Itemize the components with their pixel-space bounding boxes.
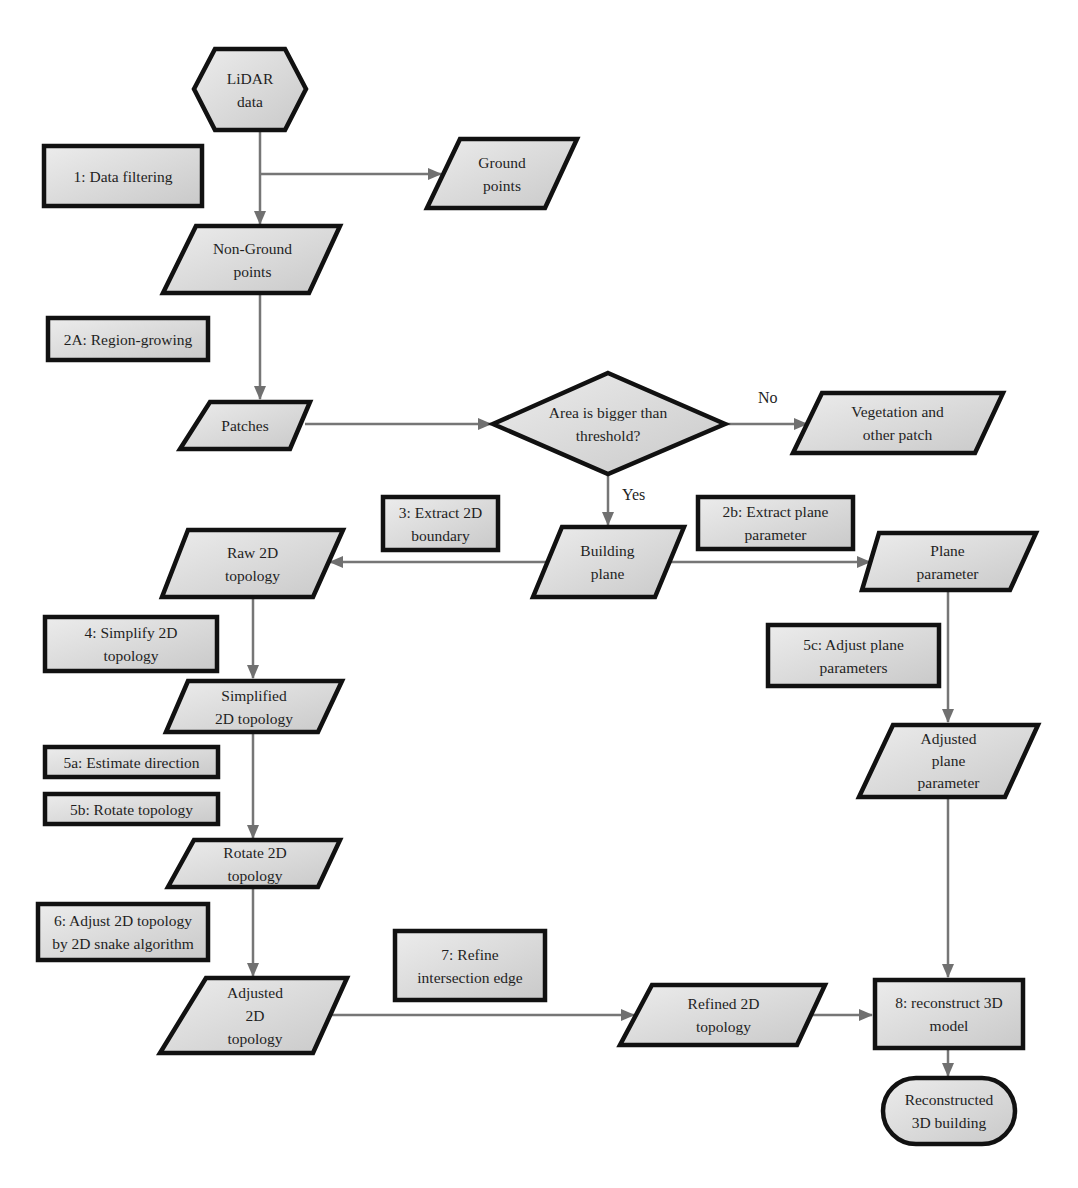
node-vegetation-parallelogram	[793, 393, 1003, 453]
node-step1-box	[44, 146, 202, 206]
node-simplified-parallelogram	[166, 681, 342, 732]
node-step8-box	[875, 980, 1023, 1048]
node-rotate2d-parallelogram	[168, 840, 340, 887]
edge-label-yes: Yes	[622, 486, 645, 504]
node-step5b-box	[45, 794, 218, 824]
node-step5c-box	[768, 625, 939, 686]
node-step2a-box	[48, 318, 208, 360]
node-step4-box	[45, 617, 217, 671]
flowchart-shapes	[0, 0, 1078, 1188]
node-step7-box	[395, 931, 545, 1000]
node-refined2d-parallelogram	[620, 985, 825, 1045]
node-raw2d-parallelogram	[162, 530, 343, 597]
node-ground-parallelogram	[427, 139, 577, 208]
node-lidar-hexagon	[194, 49, 306, 130]
node-decision-diamond	[493, 373, 725, 474]
connectors	[253, 130, 948, 1076]
node-step5a-box	[45, 747, 218, 777]
node-building-parallelogram	[533, 527, 684, 597]
node-patches-parallelogram	[180, 402, 310, 449]
node-step2b-box	[698, 497, 853, 549]
node-nonground-parallelogram	[163, 226, 340, 293]
node-step3-box	[383, 497, 498, 550]
edge-label-no: No	[758, 389, 778, 407]
node-step6-box	[38, 904, 208, 960]
node-plane-parallelogram	[862, 533, 1036, 590]
node-adjplane-parallelogram	[859, 725, 1038, 797]
node-result-terminal	[883, 1078, 1015, 1144]
node-adjusted2d-parallelogram	[160, 978, 347, 1053]
flowchart-canvas: LiDAR data 1: Data filtering Ground poin…	[0, 0, 1078, 1188]
